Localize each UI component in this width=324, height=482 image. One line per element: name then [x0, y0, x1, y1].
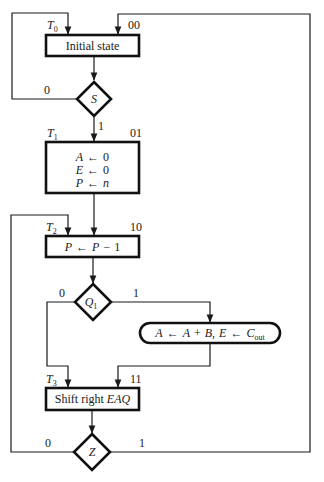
branch-label-z-0: 0 [45, 436, 51, 450]
assign-p: P ← n [75, 176, 109, 190]
state-label-t1: T1 [47, 126, 58, 142]
svg-text:0: 0 [103, 163, 109, 177]
state-text-t3: Shift right EAQ [55, 392, 131, 406]
asm-flowchart: T0 00 Initial state S 0 1 T1 01 A ← 0 E … [0, 0, 324, 482]
decision-q1: Q1 [75, 284, 111, 320]
state-text-initial: Initial state [66, 39, 120, 53]
branch-label-q1-1: 1 [133, 286, 139, 300]
svg-text:←: ← [87, 150, 99, 164]
svg-text:n: n [103, 176, 109, 190]
svg-text:E: E [75, 163, 84, 177]
state-box-t1: A ← 0 E ← 0 P ← n [46, 142, 139, 193]
state-code-t0: 00 [128, 18, 140, 32]
branch-label-q1-0: 0 [59, 286, 65, 300]
conditional-box: A←A+B,E←Cout [140, 323, 280, 343]
conditional-text: A←A+B,E←Cout [154, 326, 265, 342]
connector-q1-1-to-conditional [111, 302, 210, 322]
assign-a: A ← 0 [75, 150, 109, 164]
state-box-initial: Initial state [46, 35, 139, 56]
decision-label-z: Z [89, 445, 96, 459]
branch-label-s-0: 0 [44, 83, 50, 97]
state-code-t1: 01 [130, 126, 142, 140]
state-label-t0: T0 [47, 18, 58, 34]
decision-s: S [77, 82, 111, 116]
state-code-t2: 10 [130, 220, 142, 234]
svg-text:P: P [75, 176, 84, 190]
svg-text:←: ← [87, 163, 99, 177]
branch-label-s-1: 1 [98, 119, 104, 133]
branch-label-z-1: 1 [139, 436, 145, 450]
state-code-t3: 11 [130, 372, 142, 386]
decision-label-s: S [91, 92, 97, 106]
state-box-t3: Shift right EAQ [46, 388, 139, 410]
assign-e: E ← 0 [75, 163, 109, 177]
svg-text:A: A [75, 150, 84, 164]
decision-z: Z [74, 434, 110, 470]
state-box-t2: P←P−1 [46, 236, 139, 257]
state-label-t2: T2 [46, 220, 57, 236]
svg-text:←: ← [87, 176, 99, 190]
svg-text:0: 0 [103, 150, 109, 164]
state-label-t3: T3 [46, 372, 57, 388]
